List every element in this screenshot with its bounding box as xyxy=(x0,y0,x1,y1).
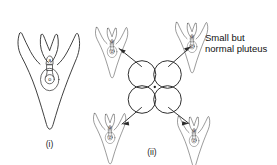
four-cell-embryo xyxy=(128,61,181,114)
blastomere-bottom-right xyxy=(154,86,182,114)
annotation-line-2: normal pluteus xyxy=(205,43,268,54)
small-pluteus-bottom-right-upper-label: a xyxy=(193,128,196,133)
small-pluteus-top-right: a o xyxy=(175,22,207,73)
small-pluteus-top-left-upper-label: a xyxy=(111,39,114,44)
large-pluteus-lower-label: o xyxy=(48,76,51,82)
figure-root: a o (i) xyxy=(0,0,277,165)
panel-ii-caption: (ii) xyxy=(147,147,157,157)
blastomere-top-right xyxy=(154,61,182,89)
large-pluteus: a o xyxy=(18,33,80,130)
large-pluteus-upper-label: a xyxy=(48,58,51,63)
small-pluteus-bottom-left-upper-label: a xyxy=(109,125,112,130)
small-pluteus-top-right-lower-label: o xyxy=(191,43,194,49)
small-pluteus-top-right-upper-label: a xyxy=(191,34,194,39)
arrowhead-bottom-right xyxy=(182,121,189,125)
arrow-to-bottom-left-pluteus xyxy=(122,108,142,125)
small-pluteus-bottom-left: a o xyxy=(93,113,125,164)
blastomere-bottom-left xyxy=(128,86,156,114)
blastomere-top-left xyxy=(128,61,156,89)
small-pluteus-top-left-lower-label: o xyxy=(111,48,114,54)
embryo-center-point xyxy=(154,86,156,88)
arrow-to-bottom-right-pluteus xyxy=(169,108,190,124)
panel-i-caption: (i) xyxy=(46,139,54,149)
small-pluteus-bottom-left-lower-label: o xyxy=(109,134,112,140)
annotation-line-1: Small but xyxy=(205,32,245,43)
small-pluteus-bottom-right-lower-label: o xyxy=(193,137,196,143)
biology-figure-svg: a o (i) xyxy=(0,0,277,165)
